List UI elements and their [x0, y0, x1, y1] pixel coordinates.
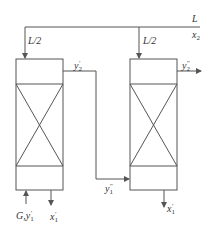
- interconnect-gas-line: [63, 71, 129, 179]
- left-split-label: L/2: [28, 36, 41, 46]
- left-gas-inlet-label: G,y1′: [16, 210, 32, 223]
- right-gas-inlet-label: y1″: [105, 183, 113, 196]
- right-liquid-outlet-label: x1′: [167, 203, 173, 216]
- absorption-diagram: L x2 L/2 L/2 y2′ y2″ y1″ G,y1′ x1′ x1′: [0, 0, 215, 236]
- left-gas-outlet-label: y2′: [74, 60, 80, 73]
- feed-flow-label: L: [192, 14, 198, 24]
- right-gas-outlet-label: y2″: [182, 60, 190, 73]
- left-liquid-outlet-label: x1′: [50, 211, 56, 224]
- feed-composition-label: x2: [192, 30, 200, 42]
- right-split-label: L/2: [143, 36, 156, 46]
